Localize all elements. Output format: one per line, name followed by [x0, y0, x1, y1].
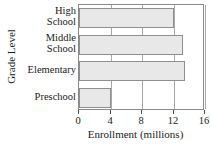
x-axis-tick	[141, 110, 142, 114]
bar	[79, 61, 185, 81]
label-line: Elementary	[14, 65, 76, 76]
gridline	[205, 5, 206, 109]
y-axis-tick-label-preschool: Preschool	[14, 92, 76, 103]
x-axis-tick-label: 4	[98, 115, 122, 126]
label-line: Preschool	[14, 92, 76, 103]
bar	[79, 35, 183, 55]
y-axis-tick-label-high-school: High School	[14, 6, 76, 27]
x-axis-tick-label: 12	[161, 115, 185, 126]
x-axis-tick-label: 8	[129, 115, 153, 126]
label-line: High	[14, 6, 76, 17]
x-axis-tick-label: 16	[192, 115, 211, 126]
x-axis-tick	[78, 110, 79, 114]
gridline	[174, 5, 175, 109]
x-axis-tick-label: 0	[66, 115, 90, 126]
label-line: Middle	[14, 33, 76, 44]
x-axis-tick	[110, 110, 111, 114]
bar	[79, 8, 174, 28]
x-axis-tick	[204, 110, 205, 114]
x-axis-title: Enrollment (millions)	[60, 129, 211, 140]
plot-area	[78, 4, 204, 110]
bar-chart: Grade Level High School Middle School El…	[0, 0, 211, 144]
bar	[79, 88, 111, 108]
label-line: School	[14, 17, 76, 28]
y-axis-tick-label-middle-school: Middle School	[14, 33, 76, 54]
y-axis-tick-labels: High School Middle School Elementary Pre…	[14, 4, 76, 110]
y-axis-tick-label-elementary: Elementary	[14, 65, 76, 76]
label-line: School	[14, 44, 76, 55]
x-axis-tick	[173, 110, 174, 114]
